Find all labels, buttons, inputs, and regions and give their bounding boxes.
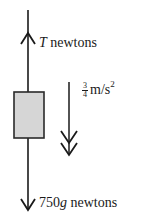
fraction-denominator: 4 [82,91,88,99]
tension-unit: newtons [50,35,97,50]
tension-symbol: T [39,35,47,50]
acceleration-exponent: 2 [110,79,115,89]
body-block [14,92,44,138]
weight-label: 750g newtons [39,196,117,210]
acceleration-label: 3 4 m/s2 [82,82,115,99]
tension-label: T newtons [39,36,97,50]
free-body-diagram [0,0,152,216]
weight-symbol: g [60,195,67,210]
weight-value: 750 [39,195,60,210]
acceleration-unit: m/s [90,82,110,97]
weight-unit: newtons [71,195,118,210]
acceleration-fraction: 3 4 [82,82,88,99]
